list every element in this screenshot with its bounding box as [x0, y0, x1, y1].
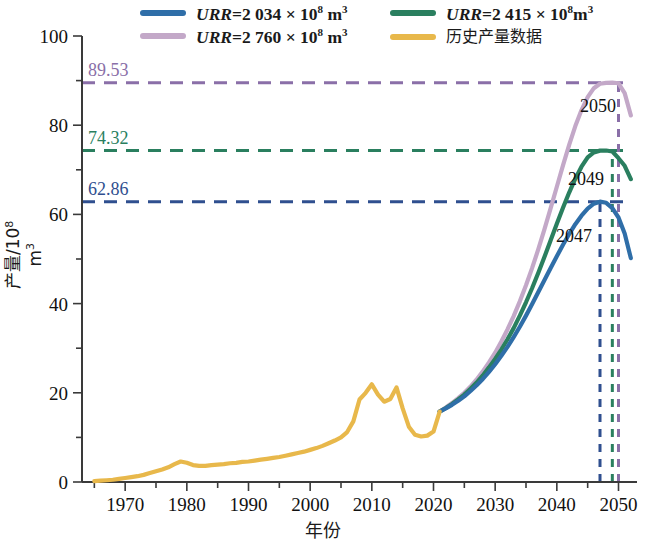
series-line-URR=2 760 × 10^8 m^3 [440, 83, 631, 412]
legend-row-1: URR=2 034 × 108 m3 URR=2 415 × 108m3 [140, 2, 645, 25]
legend-label-historical: 历史产量数据 [446, 29, 542, 45]
x-tick-label-2010: 2010 [353, 494, 391, 515]
legend-item-urr-2760: URR=2 760 × 108 m3 [140, 27, 390, 46]
x-tick-label-2000: 2000 [291, 494, 329, 515]
legend-swatch-urr-2415 [390, 10, 436, 16]
legend-swatch-urr-2760 [140, 33, 186, 39]
y-axis-title: 产量/108 m3 [0, 207, 45, 303]
legend-row-2: URR=2 760 × 108 m3 历史产量数据 [140, 25, 645, 48]
series-line-URR=2 415 × 10^8 m^3 [440, 151, 631, 412]
legend-label-urr-2760: URR=2 760 × 108 m3 [196, 27, 348, 46]
peak-value-label-74.32: 74.32 [88, 128, 129, 148]
legend-swatch-historical [390, 34, 436, 40]
chart-plot-area: 0204060801001970198019902000201020202030… [0, 0, 645, 549]
x-tick-label-2020: 2020 [415, 494, 453, 515]
peak-value-label-62.86: 62.86 [88, 179, 129, 199]
legend-label-urr-2034: URR=2 034 × 108 m3 [196, 4, 348, 23]
y-tick-label-40: 40 [49, 294, 68, 315]
y-tick-label-0: 0 [59, 472, 69, 493]
x-tick-label-2030: 2030 [476, 494, 514, 515]
x-tick-label-1990: 1990 [230, 494, 268, 515]
peak-value-label-89.53: 89.53 [88, 60, 129, 80]
peak-year-label-2049: 2049 [568, 169, 604, 189]
y-tick-label-60: 60 [49, 204, 68, 225]
y-tick-label-80: 80 [49, 115, 68, 136]
x-axis-title: 年份 [0, 516, 645, 542]
legend-item-historical: 历史产量数据 [390, 29, 542, 45]
x-tick-label-2040: 2040 [538, 494, 576, 515]
series-line-URR=2 034 × 10^8 m^3 [440, 202, 631, 412]
peak-year-label-2050: 2050 [580, 96, 616, 116]
series-line-历史产量数据 [94, 384, 439, 481]
x-tick-label-1970: 1970 [106, 494, 144, 515]
y-tick-label-100: 100 [40, 26, 69, 47]
y-tick-label-20: 20 [49, 383, 68, 404]
x-tick-label-2050: 2050 [600, 494, 638, 515]
peak-year-label-2047: 2047 [556, 226, 592, 246]
legend-item-urr-2034: URR=2 034 × 108 m3 [140, 4, 390, 23]
legend-swatch-urr-2034 [140, 10, 186, 16]
legend-item-urr-2415: URR=2 415 × 108m3 [390, 4, 593, 23]
x-tick-label-1980: 1980 [168, 494, 206, 515]
chart-legend: URR=2 034 × 108 m3 URR=2 415 × 108m3 URR… [140, 2, 645, 48]
legend-label-urr-2415: URR=2 415 × 108m3 [446, 4, 593, 23]
chart-root: URR=2 034 × 108 m3 URR=2 415 × 108m3 URR… [0, 0, 645, 549]
